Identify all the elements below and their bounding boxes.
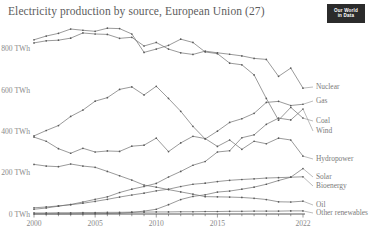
series-point-wind: [290, 119, 292, 121]
series-point-solar: [278, 180, 280, 182]
series-point-wind: [241, 137, 243, 139]
series-point-coal: [229, 62, 231, 64]
series-point-wind: [155, 183, 157, 185]
series-point-wind: [131, 188, 133, 190]
series-point-coal: [155, 48, 157, 50]
series-point-coal: [278, 119, 280, 121]
series-point-gas: [131, 86, 133, 88]
series-point-solar: [155, 208, 157, 210]
series-point-hydropower: [155, 137, 157, 139]
legend-item-coal[interactable]: Coal: [316, 117, 330, 125]
legend-item-solar[interactable]: Solar: [316, 173, 332, 181]
x-axis-tick-label: 2000: [26, 219, 41, 228]
series-point-coal: [168, 45, 170, 47]
legend-item-wind[interactable]: Wind: [316, 127, 332, 135]
series-point-gas: [217, 130, 219, 132]
series-point-hydropower: [82, 147, 84, 149]
series-point-other-renewables: [58, 212, 60, 214]
series-point-coal: [131, 33, 133, 35]
series-point-bioenergy: [217, 181, 219, 183]
legend-item-other-renewables[interactable]: Other renewables: [316, 209, 368, 217]
series-point-nuclear: [192, 54, 194, 56]
series-point-bioenergy: [180, 186, 182, 188]
series-point-hydropower: [241, 148, 243, 150]
series-point-solar: [241, 188, 243, 190]
series-point-coal: [45, 35, 47, 37]
series-point-bioenergy: [70, 204, 72, 206]
legend-item-gas[interactable]: Gas: [316, 97, 328, 105]
series-point-hydropower: [290, 139, 292, 141]
series-point-other-renewables: [290, 210, 292, 212]
series-point-hydropower: [143, 144, 145, 146]
series-point-solar: [180, 199, 182, 201]
line-chart-plot: 0 TWh200 TWh400 TWh600 TWh800 TWh2000200…: [0, 0, 369, 235]
series-point-hydropower: [192, 135, 194, 137]
series-point-wind: [168, 176, 170, 178]
legend-connector-wind: [303, 109, 313, 131]
series-point-gas: [253, 113, 255, 115]
series-point-wind: [253, 134, 255, 136]
series-point-bioenergy: [265, 177, 267, 179]
series-point-hydropower: [70, 152, 72, 154]
series-point-wind: [204, 161, 206, 163]
series-point-oil: [168, 189, 170, 191]
series-point-other-renewables: [70, 212, 72, 214]
series-point-other-renewables: [217, 211, 219, 213]
series-point-wind: [278, 117, 280, 119]
series-point-bioenergy: [229, 179, 231, 181]
series-point-nuclear: [278, 76, 280, 78]
y-axis-tick-label: 600 TWh: [1, 86, 30, 95]
series-line-bioenergy: [34, 177, 303, 208]
series-point-nuclear: [107, 34, 109, 36]
series-point-bioenergy: [155, 190, 157, 192]
series-point-oil: [290, 201, 292, 203]
series-point-gas: [70, 116, 72, 118]
legend-connector-nuclear: [303, 87, 313, 88]
series-point-oil: [265, 199, 267, 201]
legend-item-hydropower[interactable]: Hydropower: [316, 155, 353, 163]
series-point-solar: [253, 186, 255, 188]
series-point-hydropower: [131, 145, 133, 147]
series-point-bioenergy: [33, 207, 35, 209]
series-point-bioenergy: [58, 205, 60, 207]
series-point-nuclear: [33, 42, 35, 44]
legend-connector-oil: [303, 201, 313, 205]
series-point-wind: [94, 198, 96, 200]
series-line-wind: [34, 109, 303, 209]
series-point-other-renewables: [119, 212, 121, 214]
x-axis-tick-label: 2022: [295, 219, 310, 228]
legend-connector-gas: [303, 101, 313, 104]
series-line-gas: [34, 86, 303, 139]
series-point-hydropower: [217, 146, 219, 148]
series-point-solar: [217, 191, 219, 193]
series-line-hydropower: [34, 136, 303, 156]
series-point-gas: [241, 118, 243, 120]
series-point-solar: [168, 204, 170, 206]
series-point-coal: [58, 33, 60, 35]
series-point-nuclear: [265, 59, 267, 61]
series-point-coal: [143, 52, 145, 54]
series-point-oil: [131, 179, 133, 181]
series-point-other-renewables: [180, 211, 182, 213]
series-point-oil: [82, 165, 84, 167]
series-point-nuclear: [204, 50, 206, 52]
series-point-nuclear: [229, 53, 231, 55]
series-point-hydropower: [265, 143, 267, 145]
legend-item-nuclear[interactable]: Nuclear: [316, 83, 339, 91]
series-point-bioenergy: [253, 178, 255, 180]
series-point-gas: [180, 110, 182, 112]
series-point-coal: [82, 29, 84, 31]
series-point-hydropower: [168, 151, 170, 153]
series-point-wind: [265, 123, 267, 125]
series-point-gas: [229, 122, 231, 124]
series-point-other-renewables: [192, 211, 194, 213]
series-point-hydropower: [58, 148, 60, 150]
series-point-gas: [143, 94, 145, 96]
series-point-coal: [70, 28, 72, 30]
series-point-hydropower: [229, 139, 231, 141]
series-point-coal: [33, 39, 35, 41]
legend-item-bioenergy[interactable]: Bioenergy: [316, 182, 347, 190]
series-point-oil: [278, 201, 280, 203]
series-point-wind: [229, 150, 231, 152]
series-point-gas: [94, 100, 96, 102]
